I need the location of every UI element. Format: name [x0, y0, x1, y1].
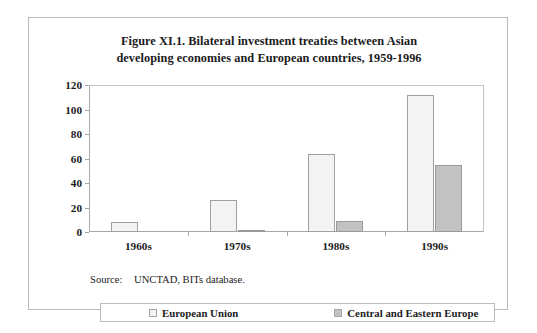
- y-axis-tick: [85, 208, 89, 209]
- legend-item-central-and-eastern-europe: Central and Eastern Europe: [334, 307, 478, 319]
- bar-1980s-central-and-eastern-europe: [336, 221, 363, 232]
- y-axis-tick-label: 0: [76, 226, 82, 238]
- legend-label-european-union: European Union: [162, 307, 238, 319]
- y-axis-tick-label: 20: [71, 202, 82, 214]
- legend-label-central-and-eastern-europe: Central and Eastern Europe: [347, 307, 478, 319]
- bar-1970s-european-union: [210, 200, 237, 232]
- y-axis-tick-label: 120: [65, 79, 82, 91]
- y-axis-tick: [85, 134, 89, 135]
- source-note: Source: UNCTAD, BITs database.: [90, 274, 245, 285]
- chart-title-line-2: developing economies and European countr…: [65, 50, 473, 67]
- legend: European Union Central and Eastern Europ…: [100, 303, 495, 322]
- figure-frame: Figure XI.1. Bilateral investment treati…: [28, 17, 508, 310]
- y-axis-tick-label: 40: [71, 177, 82, 189]
- plot-wrapper: 020406080100120 1960s1970s1980s1990s: [89, 85, 484, 232]
- x-axis-tick: [188, 232, 189, 236]
- x-axis-category-label: 1980s: [323, 240, 350, 252]
- y-axis-tick: [85, 183, 89, 184]
- legend-item-european-union: European Union: [149, 307, 238, 319]
- bar-1970s-central-and-eastern-europe: [238, 230, 265, 232]
- y-axis-tick-label: 60: [71, 153, 82, 165]
- x-axis-category-label: 1960s: [125, 240, 152, 252]
- bar-1990s-central-and-eastern-europe: [435, 165, 462, 232]
- y-axis-tick-label: 100: [65, 104, 82, 116]
- y-axis-tick: [85, 110, 89, 111]
- source-note-text: UNCTAD, BITs database.: [134, 274, 245, 285]
- chart-title: Figure XI.1. Bilateral investment treati…: [65, 33, 473, 66]
- x-axis-category-label: 1990s: [421, 240, 448, 252]
- x-axis-tick: [287, 232, 288, 236]
- y-axis-tick: [85, 232, 89, 233]
- bar-1960s-european-union: [111, 222, 138, 232]
- y-axis-tick-label: 80: [71, 128, 82, 140]
- bar-1990s-european-union: [407, 95, 434, 232]
- y-axis-tick: [85, 85, 89, 86]
- legend-swatch-icon-european-union: [149, 309, 157, 317]
- source-note-label: Source:: [90, 274, 122, 285]
- chart-title-line-1: Figure XI.1. Bilateral investment treati…: [65, 33, 473, 50]
- bar-1980s-european-union: [308, 154, 335, 232]
- x-axis-category-label: 1970s: [224, 240, 251, 252]
- x-axis-tick: [385, 232, 386, 236]
- y-axis-tick: [85, 159, 89, 160]
- legend-swatch-icon-central-and-eastern-europe: [334, 309, 342, 317]
